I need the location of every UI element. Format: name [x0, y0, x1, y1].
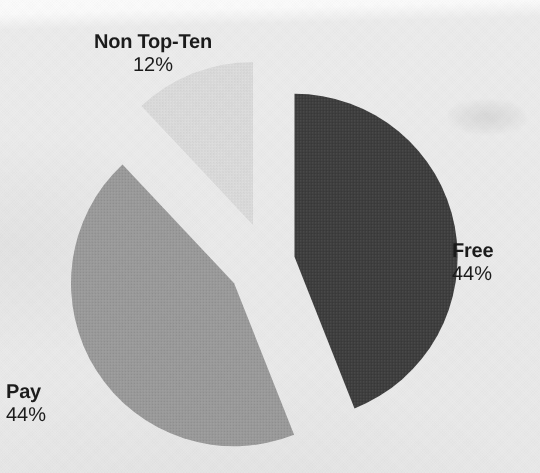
slice-label-non-top-ten-percent: 12% [58, 55, 248, 77]
slice-label-pay: Pay 44% [6, 382, 90, 426]
pie-slice-free[interactable] [295, 94, 458, 409]
slice-label-free-percent: 44% [452, 264, 532, 286]
slice-label-non-top-ten-name: Non Top-Ten [58, 32, 248, 54]
pie-chart-figure: Non Top-Ten 12% Free 44% Pay 44% [0, 0, 540, 473]
pie-slice-non-top-ten[interactable] [141, 62, 253, 225]
slice-label-pay-percent: 44% [6, 405, 90, 427]
slice-label-free: Free 44% [452, 241, 532, 285]
slice-label-non-top-ten: Non Top-Ten 12% [58, 32, 248, 76]
pie-slice-pay[interactable] [71, 164, 294, 446]
slice-label-pay-name: Pay [6, 382, 90, 404]
slice-label-free-name: Free [452, 241, 532, 263]
